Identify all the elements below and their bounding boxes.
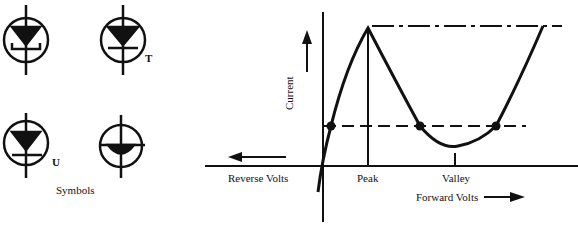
y-axis-label: Current (283, 76, 295, 110)
valley-label: Valley (442, 172, 470, 184)
iv-curve (318, 26, 543, 192)
diode-symbol-4 (99, 115, 145, 178)
symbols-caption: Symbols (56, 184, 95, 196)
symbol-2-label: T (145, 52, 152, 64)
diode-symbol-3 (4, 113, 48, 178)
reverse-volts-label: Reverse Volts (228, 172, 288, 184)
diode-symbol-2 (101, 5, 145, 75)
forward-volts-label: Forward Volts (416, 191, 478, 203)
peak-label: Peak (357, 172, 378, 184)
diode-symbol-1 (4, 5, 48, 75)
symbol-3-label: U (52, 156, 60, 168)
